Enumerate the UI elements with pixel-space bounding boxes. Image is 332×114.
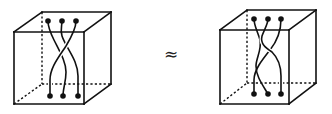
top-endpoint-dot: [59, 18, 65, 24]
approximately-equal-symbol: ≈: [161, 44, 181, 64]
bottom-endpoint-dot: [278, 91, 284, 97]
top-endpoint-dot: [73, 18, 79, 24]
hidden-edge-bottom-left-depth: [220, 83, 247, 104]
top-endpoint-dot: [278, 16, 284, 22]
bottom-endpoint-dot: [47, 93, 53, 99]
bottom-endpoint-dot: [251, 91, 257, 97]
top-left-depth-edge: [14, 12, 42, 32]
top-left-depth-edge: [220, 10, 247, 30]
bottom-endpoint-dot: [75, 93, 81, 99]
bottom-endpoint-dot: [60, 93, 66, 99]
top-endpoint-dot: [265, 16, 271, 22]
bottom-right-depth-edge: [84, 84, 111, 104]
left-braid-cube: [14, 12, 111, 104]
bottom-endpoint-dot: [265, 91, 271, 97]
right-braid-cube: [220, 10, 316, 104]
bottom-right-depth-edge: [289, 83, 316, 104]
top-right-depth-edge: [289, 10, 316, 30]
top-endpoint-dot: [45, 18, 51, 24]
hidden-edge-bottom-left-depth: [14, 84, 42, 104]
top-right-depth-edge: [84, 12, 111, 32]
top-endpoint-dot: [251, 16, 257, 22]
